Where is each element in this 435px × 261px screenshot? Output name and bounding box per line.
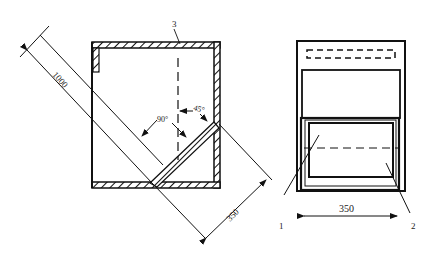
drawing-canvas: 3 1000 350 90° 45° — [0, 0, 435, 261]
part-label-1: 1 — [279, 221, 284, 231]
svg-text:1000: 1000 — [51, 70, 71, 90]
svg-text:45°: 45° — [192, 103, 205, 115]
upper-panel — [302, 70, 400, 118]
part-label-3: 3 — [172, 19, 177, 29]
top-dashed-slot — [307, 50, 395, 58]
angle-90: 90° — [142, 115, 186, 137]
window-frame — [301, 118, 399, 190]
side-section-view: 3 1000 350 90° 45° — [20, 19, 272, 238]
svg-text:90°: 90° — [157, 115, 168, 124]
svg-text:350: 350 — [224, 206, 241, 223]
front-view: 1 2 350 — [279, 41, 416, 231]
part-label-2: 2 — [411, 221, 416, 231]
window-pane — [309, 123, 393, 177]
angle-45: 45° — [180, 103, 207, 121]
tilted-panel — [150, 122, 219, 187]
svg-text:350: 350 — [339, 203, 354, 214]
dimension-1000: 1000 — [20, 26, 205, 238]
